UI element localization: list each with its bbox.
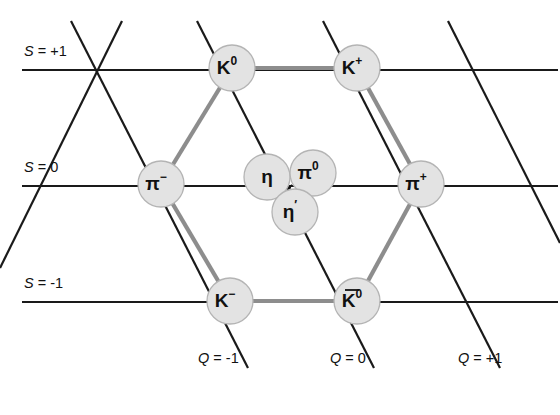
charge-axis-label-q-zero: Q = 0 <box>330 350 366 366</box>
axis-label-value: = +1 <box>34 43 67 59</box>
node-label-superscript: − <box>160 170 167 184</box>
strangeness-axis-label-s-plus-1: S = +1 <box>24 43 67 59</box>
particle-node-pi[interactable]: π− <box>138 161 184 207</box>
node-label-superscript: + <box>355 54 362 68</box>
particle-node-k0bar[interactable]: K0 <box>334 278 380 324</box>
node-label-base: π <box>145 173 160 194</box>
particle-node-k[interactable]: K− <box>207 278 253 324</box>
particle-node-k[interactable]: K+ <box>334 45 380 91</box>
axis-label-value: = -1 <box>209 350 238 366</box>
node-label-base: π <box>405 173 420 194</box>
node-label-base: K <box>342 290 356 311</box>
bond-lines <box>161 68 421 301</box>
meson-nonet-diagram: K0K+π−ηπ0η′π+K−K0 S = +1S = 0S = -1Q = -… <box>0 0 560 415</box>
charge-axis-label-q-minus-1: Q = -1 <box>198 350 239 366</box>
node-label-base: π <box>297 162 312 183</box>
axis-label-symbol: S <box>24 43 34 59</box>
node-label-superscript: − <box>228 287 235 301</box>
node-label-base: η <box>283 201 295 222</box>
diag-upper-right-1 <box>448 21 560 243</box>
node-label-superscript: ′ <box>294 198 297 212</box>
node-label-base: K <box>217 57 231 78</box>
axis-label-value: = +1 <box>469 350 502 366</box>
node-label-superscript: 0 <box>231 54 238 68</box>
node-label-superscript: 0 <box>312 159 319 173</box>
axis-label-symbol: Q <box>458 350 469 366</box>
axis-label-symbol: Q <box>198 350 209 366</box>
axis-label-value: = -1 <box>34 275 63 291</box>
particle-node-k0[interactable]: K0 <box>209 45 255 91</box>
particle-nodes: K0K+π−ηπ0η′π+K−K0 <box>138 45 444 324</box>
node-label-superscript: + <box>420 170 427 184</box>
node-label: η <box>261 166 273 187</box>
axis-label-symbol: S <box>24 159 34 175</box>
extra-diagonal-lines <box>0 21 560 268</box>
particle-node-pi[interactable]: π+ <box>398 161 444 207</box>
node-label-base: K <box>215 290 229 311</box>
charge-axis-label-q-plus-1: Q = +1 <box>458 350 502 366</box>
axis-label-symbol: S <box>24 275 34 291</box>
node-label-base: K <box>342 57 356 78</box>
axis-label-symbol: Q <box>330 350 341 366</box>
strangeness-axis-label-s-zero: S = 0 <box>24 159 58 175</box>
particle-node-etaprime[interactable]: η′ <box>272 189 318 235</box>
axis-label-value: = 0 <box>341 350 366 366</box>
axis-label-value: = 0 <box>34 159 59 175</box>
strangeness-axis-label-s-minus-1: S = -1 <box>24 275 63 291</box>
node-label-base: η <box>261 166 273 187</box>
diagram-canvas: K0K+π−ηπ0η′π+K−K0 S = +1S = 0S = -1Q = -… <box>0 0 560 415</box>
